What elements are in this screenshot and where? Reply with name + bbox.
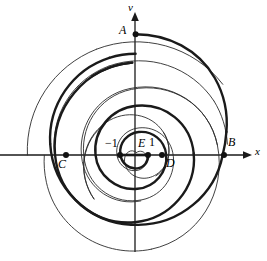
point-dot-B: [221, 152, 227, 158]
axis-label-x: x: [255, 146, 260, 157]
y-axis-arrowhead: [131, 12, 139, 21]
point-dot-A: [133, 31, 139, 37]
point-dot-minus-one: [117, 152, 123, 158]
point-label-B: B: [228, 136, 235, 148]
point-label-C: C: [58, 158, 66, 170]
axis-label-v: v: [128, 2, 133, 13]
point-dot-D: [159, 152, 165, 158]
x-axis-arrowhead: [243, 151, 252, 159]
tick-label-minus-one: −1: [105, 137, 118, 149]
point-label-E: E: [138, 137, 145, 149]
point-dot-E: [145, 152, 151, 158]
thin-spiral-curve: [27, 42, 227, 251]
point-label-D: D: [166, 157, 175, 169]
spiral-canvas: [0, 0, 267, 261]
axes-group: [0, 12, 252, 252]
tick-label-one: 1: [149, 136, 155, 148]
point-label-A: A: [119, 24, 126, 36]
spiral-figure: v x A B C D E −1 1: [0, 0, 267, 261]
